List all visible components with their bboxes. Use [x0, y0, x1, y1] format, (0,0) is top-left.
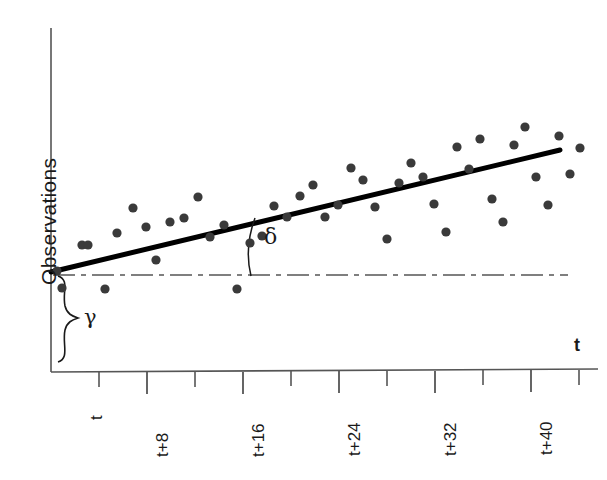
- x-tick-label-t24: t+24: [346, 422, 363, 456]
- data-point: [100, 284, 109, 293]
- data-point: [418, 172, 427, 181]
- data-point: [320, 212, 329, 221]
- figure-container: Observations t t t+8 t+16 t+24 t+32 t+40…: [0, 0, 607, 480]
- data-point: [245, 238, 254, 247]
- data-point: [128, 203, 137, 212]
- delta-symbol: δ: [264, 226, 277, 248]
- data-point: [83, 240, 92, 249]
- data-point: [358, 175, 367, 184]
- data-point: [295, 191, 304, 200]
- x-axis-major-ticks: [147, 370, 531, 394]
- data-point: [498, 217, 507, 226]
- y-axis-label: Observations: [38, 158, 59, 285]
- x-axis-name: t: [574, 336, 580, 354]
- data-point: [112, 228, 121, 237]
- data-point: [193, 192, 202, 201]
- data-point: [282, 212, 291, 221]
- data-point: [531, 172, 540, 181]
- data-point: [370, 202, 379, 211]
- data-point: [575, 143, 584, 152]
- data-point: [543, 200, 552, 209]
- data-point: [429, 199, 438, 208]
- data-point: [475, 134, 484, 143]
- data-point: [487, 194, 496, 203]
- data-point: [509, 140, 518, 149]
- gamma-symbol: γ: [84, 307, 97, 328]
- data-point: [520, 122, 529, 131]
- data-point: [205, 232, 214, 241]
- x-tick-label-t32: t+32: [442, 422, 459, 456]
- data-point: [441, 227, 450, 236]
- data-point: [269, 201, 278, 210]
- data-point: [406, 158, 415, 167]
- data-point: [333, 200, 342, 209]
- plot-canvas: [0, 0, 607, 480]
- data-point: [452, 142, 461, 151]
- data-point: [554, 131, 563, 140]
- data-point: [394, 178, 403, 187]
- data-point: [382, 234, 391, 243]
- x-tick-label-t40: t+40: [538, 421, 555, 455]
- data-point: [232, 284, 241, 293]
- x-tick-label-t8: t+8: [154, 433, 171, 457]
- x-tick-label-t16: t+16: [250, 423, 267, 457]
- x-tick-label-origin: t: [88, 415, 105, 420]
- data-point: [464, 164, 473, 173]
- data-point: [151, 255, 160, 264]
- data-point: [219, 220, 228, 229]
- trend-line: [51, 150, 560, 272]
- data-point: [141, 222, 150, 231]
- data-point: [565, 169, 574, 178]
- data-point: [179, 213, 188, 222]
- data-point: [308, 180, 317, 189]
- x-axis-line: [51, 369, 598, 372]
- data-point: [165, 217, 174, 226]
- data-point: [346, 163, 355, 172]
